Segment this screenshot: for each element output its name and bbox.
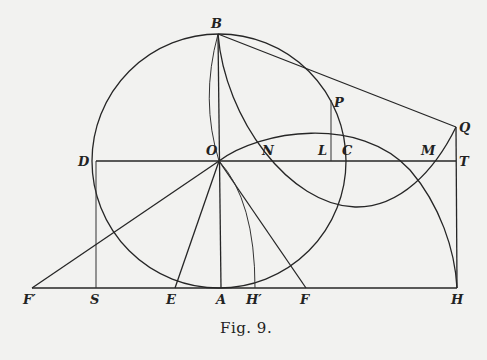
label-P: P (333, 95, 345, 110)
label-A: A (214, 292, 226, 307)
label-T: T (459, 154, 470, 169)
line-OF-prime (32, 161, 219, 288)
label-Q: Q (459, 120, 471, 135)
label-M: M (420, 143, 436, 158)
label-H-prime: H′ (245, 292, 262, 307)
label-F-prime: F′ (22, 292, 36, 307)
label-C: C (342, 143, 353, 158)
label-F: F (299, 292, 310, 307)
label-N: N (261, 143, 275, 158)
label-D: D (77, 154, 90, 169)
line-OE (175, 161, 219, 288)
geometric-figure: B P Q D O N L C M T F′ S E A H′ F H Fig.… (0, 0, 487, 360)
arc-OH-prime (219, 161, 255, 288)
label-L: L (317, 143, 327, 158)
figure-caption: Fig. 9. (220, 319, 272, 337)
line-QH (456, 127, 457, 288)
arc-B-lens (209, 34, 219, 161)
label-B: B (210, 16, 222, 31)
label-O: O (206, 143, 218, 158)
label-E: E (165, 292, 177, 307)
label-S: S (90, 292, 99, 307)
line-OF (219, 161, 306, 288)
arc-BMQ (218, 34, 456, 207)
label-H: H (450, 292, 464, 307)
